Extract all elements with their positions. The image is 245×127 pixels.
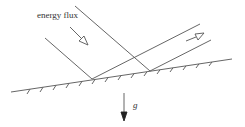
gravity-arrow-icon <box>121 93 127 121</box>
boundary-hatching <box>27 62 212 94</box>
gravity-label: g <box>133 100 138 110</box>
incident-ray-left <box>45 38 92 79</box>
incident-energy-arrow-icon <box>70 27 88 45</box>
incident-ray-right <box>75 6 150 71</box>
reflected-energy-arrow-icon <box>186 33 204 41</box>
energy-flux-label: energy flux <box>37 10 79 20</box>
reflected-ray-left <box>92 24 200 79</box>
wave-reflection-diagram: energy flux g <box>0 0 245 127</box>
